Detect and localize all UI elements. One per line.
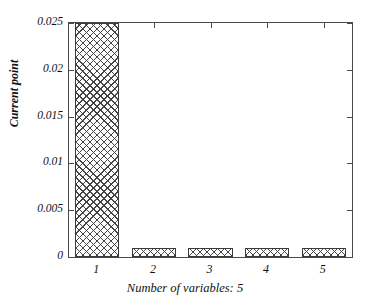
y-tick-label-0.015: 0.015 (5, 110, 63, 122)
y-tick-mark-right-0 (347, 257, 352, 258)
bars-layer (69, 23, 352, 257)
y-tick-label-0.02: 0.02 (5, 63, 63, 75)
y-tick-label-0.005: 0.005 (5, 203, 63, 215)
x-tick-label-2: 2 (138, 263, 168, 275)
y-tick-label-0.025: 0.025 (5, 16, 63, 28)
y-tick-label-0: 0 (5, 250, 63, 262)
x-axis-title: Number of variables: 5 (0, 281, 370, 296)
y-tick-label-0.01: 0.01 (5, 156, 63, 168)
bar-4[interactable] (245, 248, 289, 257)
plot-area (68, 22, 353, 258)
chart-figure: Current point 0.025 0.02 0.015 0.01 0.00… (0, 0, 370, 303)
bar-5[interactable] (302, 248, 346, 257)
x-tick-label-3: 3 (195, 263, 225, 275)
bar-3[interactable] (188, 248, 232, 257)
x-tick-label-5: 5 (308, 263, 338, 275)
y-tick-mark-0 (69, 257, 74, 258)
bar-2[interactable] (132, 248, 176, 257)
x-tick-label-1: 1 (81, 263, 111, 275)
x-tick-label-4: 4 (251, 263, 281, 275)
y-axis-title: Current point (7, 34, 22, 154)
bar-1[interactable] (75, 23, 119, 257)
